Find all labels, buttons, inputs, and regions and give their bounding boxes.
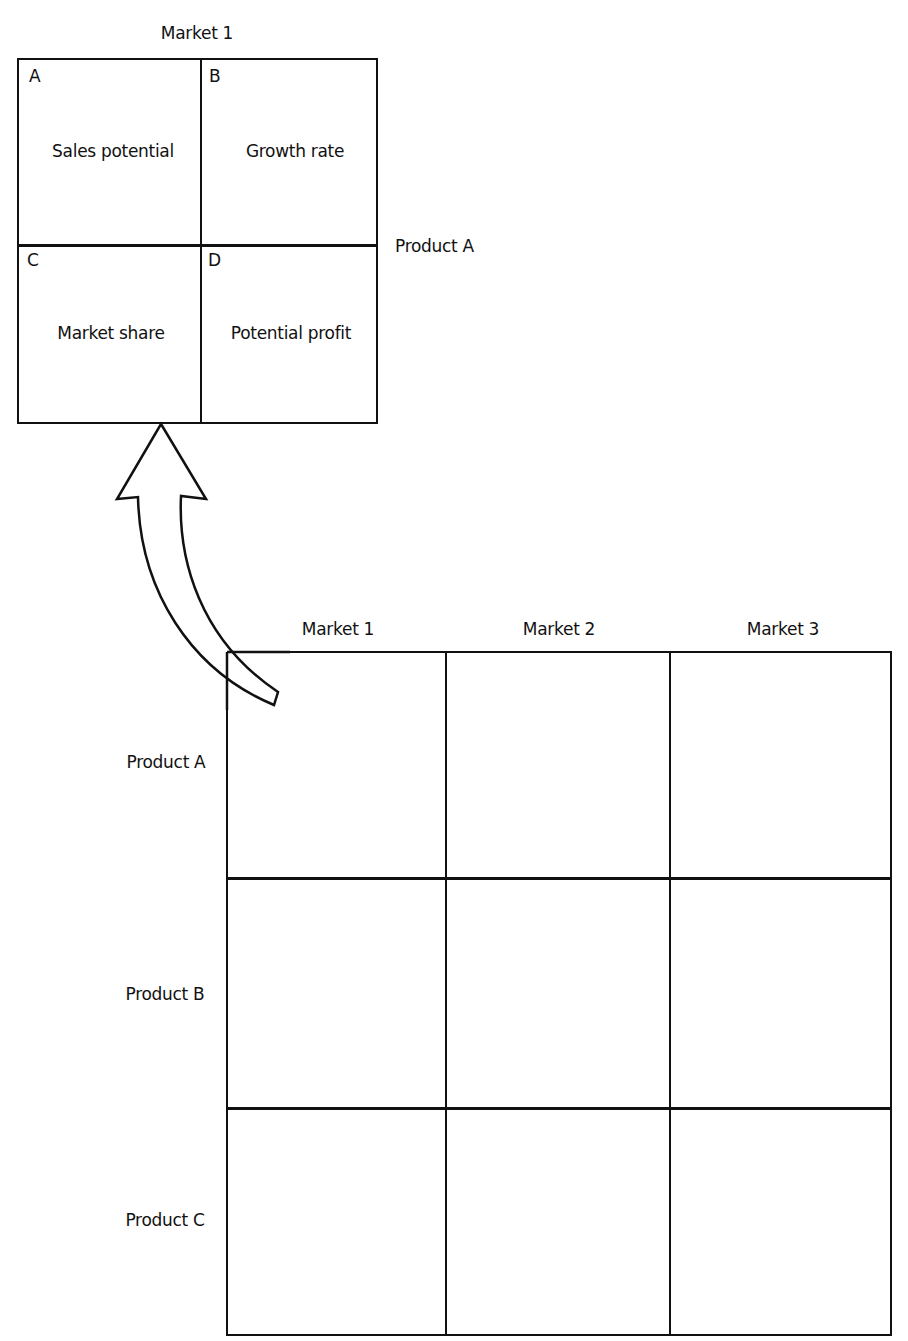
matrix-cell-product-b-market-2	[447, 880, 669, 1107]
matrix-row-label-product-a: Product A	[127, 752, 206, 772]
cell-letter-d: D	[208, 250, 221, 270]
matrix-cell-product-a-market-1	[228, 653, 445, 877]
detail-column-header: Market 1	[161, 23, 233, 43]
cell-label-growth-rate: Growth rate	[246, 141, 344, 161]
cell-letter-c: C	[27, 250, 39, 270]
detail-box-horizontal-divider	[18, 244, 377, 247]
detail-box	[17, 58, 378, 424]
matrix-cell-product-a-market-2	[447, 653, 669, 877]
matrix-row-label-product-b: Product B	[126, 984, 205, 1004]
matrix-cell-product-b-market-3	[671, 880, 890, 1107]
detail-box-vertical-divider	[200, 59, 202, 423]
cell-label-market-share: Market share	[57, 323, 164, 343]
matrix-row-label-product-c: Product C	[125, 1210, 204, 1230]
matrix-cell-product-c-market-1	[228, 1110, 445, 1334]
cell-letter-b: B	[209, 66, 221, 86]
matrix-cell-product-c-market-2	[447, 1110, 669, 1334]
matrix-column-header-2: Market 2	[523, 619, 595, 639]
matrix-cell-product-a-market-3	[671, 653, 890, 877]
matrix-cell-product-b-market-1	[228, 880, 445, 1107]
cell-letter-a: A	[29, 66, 41, 86]
matrix-column-header-3: Market 3	[747, 619, 819, 639]
matrix-column-header-1: Market 1	[302, 619, 374, 639]
cell-label-potential-profit: Potential profit	[231, 323, 351, 343]
detail-row-label: Product A	[395, 236, 474, 256]
cell-label-sales-potential: Sales potential	[52, 141, 174, 161]
matrix-cell-product-c-market-3	[671, 1110, 890, 1334]
